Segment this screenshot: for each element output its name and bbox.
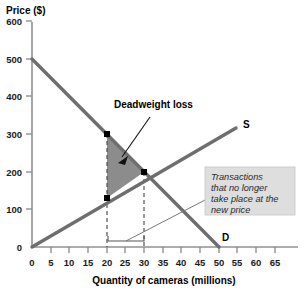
y-tick-label: 100: [6, 204, 22, 215]
demand-curve-label: D: [222, 232, 229, 243]
point-marker-q20-p300: [104, 131, 110, 137]
point-marker-q20-p130: [104, 195, 110, 201]
x-tick-label: 60: [251, 257, 262, 268]
y-tick-label: 600: [6, 16, 22, 27]
y-axis-title: Price ($): [6, 5, 45, 16]
y-tick-label: 300: [6, 129, 22, 140]
y-axis-tick-labels: 600 500 400 300 200 100 0: [6, 16, 22, 253]
chart-figure: Price ($) 600 500 400 300 200 100 0: [0, 0, 304, 291]
supply-curve-label: S: [243, 119, 250, 130]
x-tick-label: 25: [120, 257, 131, 268]
x-tick-label: 10: [64, 257, 75, 268]
y-axis-ticks: [26, 21, 32, 209]
transactions-note-line-3: take place at the: [211, 194, 278, 204]
supply-demand-chart: Price ($) 600 500 400 300 200 100 0: [0, 0, 304, 291]
x-tick-label: 20: [102, 257, 113, 268]
x-tick-label: 5: [48, 257, 54, 268]
x-axis-tick-labels: 0 5 10 15 20 25 30 35 40 45 50 55 60 65: [29, 257, 281, 268]
x-tick-label: 50: [214, 257, 225, 268]
y-tick-label: 200: [6, 167, 22, 178]
transactions-note-line-1: Transactions: [211, 172, 263, 182]
x-tick-label: 45: [195, 257, 206, 268]
x-tick-label: 30: [139, 257, 150, 268]
x-tick-label: 65: [270, 257, 281, 268]
x-axis-ticks: [51, 247, 275, 253]
transactions-note-line-2: that no longer: [211, 183, 268, 193]
deadweight-loss-label: Deadweight loss: [114, 99, 193, 110]
x-tick-label: 35: [158, 257, 169, 268]
deadweight-loss-leader: [122, 117, 150, 157]
y-tick-label: 400: [6, 91, 22, 102]
x-tick-label: 0: [29, 257, 34, 268]
transactions-note-line-4: new price: [211, 205, 250, 215]
x-tick-label: 40: [176, 257, 187, 268]
x-tick-label: 15: [83, 257, 94, 268]
x-axis-title: Quantity of cameras (millions): [92, 275, 235, 286]
point-marker-equilibrium: [141, 169, 147, 175]
y-tick-label: 500: [6, 54, 22, 65]
transactions-bracket: [108, 236, 144, 241]
x-tick-label: 55: [232, 257, 243, 268]
y-tick-label: 0: [17, 242, 22, 253]
